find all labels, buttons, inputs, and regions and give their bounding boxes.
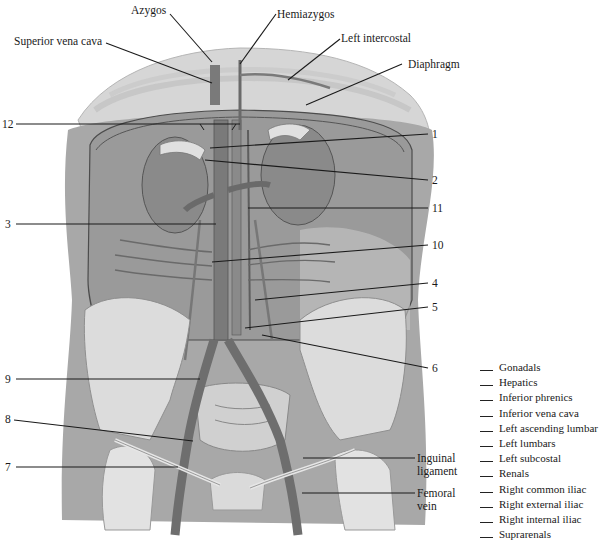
answer-item: Left subcostal — [480, 451, 598, 466]
answer-bank: Gonadals Hepatics Inferior phrenics Infe… — [480, 360, 598, 542]
answer-item: Left ascending lumbar — [480, 421, 598, 436]
answer-item: Renals — [480, 466, 598, 481]
number-label-4: 4 — [432, 277, 438, 290]
answer-item: Right internal iliac — [480, 512, 598, 527]
label-hemiazygos: Hemiazygos — [277, 8, 334, 21]
number-label-8: 8 — [5, 413, 11, 426]
answer-blank[interactable] — [480, 431, 493, 432]
answer-blank[interactable] — [480, 370, 493, 371]
answer-blank[interactable] — [480, 537, 493, 538]
number-label-9: 9 — [5, 373, 11, 386]
superior-vena-cava-vessel — [210, 65, 220, 105]
answer-item: Inferior phrenics — [480, 390, 598, 405]
label-azygos: Azygos — [131, 4, 166, 17]
label-inguinal-ligament: Inguinal ligament — [417, 452, 477, 478]
number-label-10: 10 — [432, 239, 444, 252]
answer-blank[interactable] — [480, 522, 493, 523]
answer-blank[interactable] — [480, 492, 493, 493]
answer-blank[interactable] — [480, 507, 493, 508]
answer-item: Suprarenals — [480, 527, 598, 542]
answer-item: Left lumbars — [480, 436, 598, 451]
answer-blank[interactable] — [480, 385, 493, 386]
number-label-2: 2 — [432, 174, 438, 187]
number-label-11: 11 — [432, 202, 443, 215]
label-diaphragm: Diaphragm — [408, 58, 460, 71]
answer-blank[interactable] — [480, 476, 493, 477]
number-label-1: 1 — [432, 128, 438, 141]
answer-item: Right common iliac — [480, 482, 598, 497]
answer-blank[interactable] — [480, 446, 493, 447]
answer-item: Inferior vena cava — [480, 406, 598, 421]
answer-item: Gonadals — [480, 360, 598, 375]
number-label-3: 3 — [5, 218, 11, 231]
answer-blank[interactable] — [480, 416, 493, 417]
label-superior-vena-cava: Superior vena cava — [14, 35, 102, 48]
number-label-6: 6 — [432, 362, 438, 375]
answer-item: Hepatics — [480, 375, 598, 390]
left-kidney — [261, 125, 335, 225]
answer-item: Right external iliac — [480, 497, 598, 512]
label-femoral-vein: Femoral vein — [417, 487, 477, 513]
number-label-12: 12 — [2, 118, 14, 131]
label-left-intercostal: Left intercostal — [341, 32, 411, 45]
number-label-7: 7 — [5, 461, 11, 474]
answer-blank[interactable] — [480, 461, 493, 462]
answer-blank[interactable] — [480, 400, 493, 401]
inferior-vena-cava — [214, 120, 228, 340]
number-label-5: 5 — [432, 301, 438, 314]
